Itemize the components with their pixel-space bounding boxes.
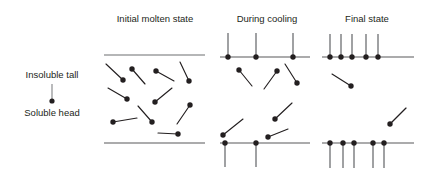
free-molecule-head-initial-molten-state-7 — [110, 119, 115, 124]
anchored-top-head-final-state-0 — [327, 54, 332, 59]
free-molecule-head-initial-molten-state-6 — [187, 102, 192, 107]
free-molecule-head-during-cooling-4 — [220, 132, 225, 137]
free-molecule-head-during-cooling-2 — [294, 80, 299, 85]
anchored-top-head-during-cooling-2 — [290, 54, 295, 59]
anchored-top-head-final-state-2 — [349, 54, 354, 59]
free-molecule-head-initial-molten-state-3 — [186, 78, 191, 83]
anchored-bottom-head-final-state-4 — [381, 140, 386, 145]
free-molecule-head-during-cooling-1 — [274, 68, 279, 73]
panel-title-initial-molten-state: Initial molten state — [117, 13, 194, 24]
anchored-bottom-head-during-cooling-0 — [222, 140, 227, 145]
anchored-top-head-during-cooling-0 — [225, 54, 230, 59]
panel-title-final-state: Final state — [345, 13, 389, 24]
anchored-bottom-head-final-state-1 — [340, 140, 345, 145]
anchored-top-head-during-cooling-1 — [253, 54, 258, 59]
panel-title-during-cooling: During cooling — [237, 13, 298, 24]
free-molecule-head-final-state-0 — [348, 83, 353, 88]
free-molecule-head-during-cooling-0 — [236, 67, 241, 72]
free-molecule-head-initial-molten-state-4 — [124, 96, 129, 101]
free-molecule-head-initial-molten-state-0 — [120, 77, 125, 82]
free-molecule-head-final-state-1 — [387, 121, 392, 126]
anchored-top-head-final-state-1 — [338, 54, 343, 59]
amphiphile-state-diagram: Insoluble tallSoluble head Initial molte… — [0, 0, 423, 174]
anchored-bottom-head-final-state-3 — [370, 140, 375, 145]
legend-soluble-head-label: Soluble head — [24, 107, 79, 118]
legend-insoluble-tail-label: Insoluble tall — [26, 69, 79, 80]
anchored-bottom-head-final-state-0 — [327, 140, 332, 145]
free-molecule-head-initial-molten-state-2 — [153, 68, 158, 73]
free-molecule-head-initial-molten-state-5 — [152, 99, 157, 104]
anchored-top-head-final-state-3 — [363, 54, 368, 59]
free-molecule-head-during-cooling-3 — [272, 116, 277, 121]
anchored-bottom-head-final-state-2 — [351, 140, 356, 145]
free-molecule-head-initial-molten-state-1 — [129, 66, 134, 71]
figure-background — [0, 0, 423, 174]
free-molecule-head-initial-molten-state-8 — [149, 119, 154, 124]
free-molecule-head-during-cooling-5 — [265, 134, 270, 139]
anchored-top-head-final-state-4 — [375, 54, 380, 59]
free-molecule-head-initial-molten-state-9 — [175, 131, 180, 136]
legend-head-dot — [49, 98, 54, 103]
anchored-bottom-head-during-cooling-1 — [253, 140, 258, 145]
